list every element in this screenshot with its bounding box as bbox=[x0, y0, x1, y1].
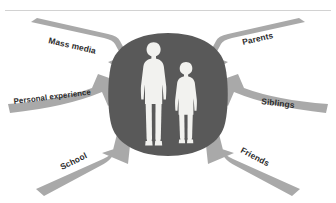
socialization-diagram: Mass media Parents Personal experience S… bbox=[0, 0, 336, 203]
arrow-friends: Friends bbox=[205, 134, 300, 196]
central-blob bbox=[108, 33, 228, 156]
arrow-school-shape bbox=[36, 134, 131, 196]
arrow-siblings-label: Siblings bbox=[261, 96, 296, 110]
arrow-friends-shape bbox=[205, 134, 300, 196]
arrow-school: School bbox=[36, 134, 131, 196]
arrow-mass-media-label: Mass media bbox=[48, 35, 98, 56]
diagram-canvas: Mass media Parents Personal experience S… bbox=[0, 0, 336, 203]
